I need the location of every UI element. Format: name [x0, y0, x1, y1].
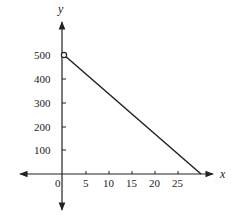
x-axis-label: x	[219, 167, 226, 181]
svg-text:0: 0	[55, 177, 61, 189]
svg-text:400: 400	[34, 73, 51, 85]
point-marker	[61, 52, 66, 57]
svg-text:5: 5	[83, 177, 89, 189]
x-tick-labels: 0 5 10 15 20 25	[55, 177, 184, 189]
line-chart: y x 0 5 10 15 20 25 500 400 300 200 100	[0, 0, 238, 221]
svg-text:10: 10	[103, 177, 115, 189]
svg-text:200: 200	[34, 121, 51, 133]
svg-text:500: 500	[34, 49, 51, 61]
data-line	[64, 55, 201, 174]
svg-text:100: 100	[34, 144, 51, 156]
y-tick-labels: 500 400 300 200 100	[34, 49, 51, 156]
svg-text:25: 25	[172, 177, 184, 189]
y-axis-label: y	[57, 2, 64, 16]
svg-text:15: 15	[126, 177, 138, 189]
svg-text:20: 20	[149, 177, 161, 189]
svg-text:300: 300	[34, 97, 51, 109]
